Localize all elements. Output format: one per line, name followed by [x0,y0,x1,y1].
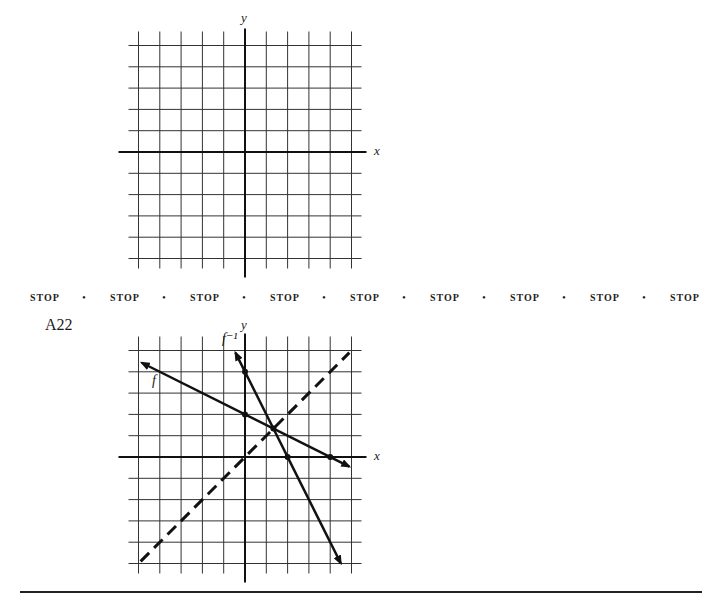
answer-graph-y-label: y [241,317,247,333]
stop-marker: STOP [350,292,380,303]
answer-graph-x-label: x [374,448,380,464]
marked-point [242,411,248,417]
stop-marker: STOP [670,292,700,303]
stop-separator: • [322,291,326,303]
answer-label: A22 [45,316,73,334]
stop-marker: STOP [110,292,140,303]
marked-point [242,369,248,375]
stop-marker: STOP [30,292,60,303]
top-graph-x-label: x [374,143,380,159]
marked-point [270,426,276,432]
stop-separator: • [402,291,406,303]
stop-separator: • [562,291,566,303]
stop-marker: STOP [430,292,460,303]
stop-separator: • [162,291,166,303]
stop-separator: • [242,291,246,303]
stop-marker: STOP [270,292,300,303]
stop-separator: • [82,291,86,303]
stop-separator: • [482,291,486,303]
stop-marker: STOP [190,292,220,303]
stop-row: STOP•STOP•STOP•STOP•STOP•STOP•STOP•STOP•… [0,292,728,308]
f-curve-label: f [152,373,156,389]
top-graph-y-label: y [241,10,247,26]
stop-marker: STOP [590,292,620,303]
stop-separator: • [642,291,646,303]
stop-marker: STOP [510,292,540,303]
f-inverse-curve-label: f⁻¹ [222,330,237,347]
section-divider [20,591,702,593]
marked-point [327,454,333,460]
marked-point [285,454,291,460]
